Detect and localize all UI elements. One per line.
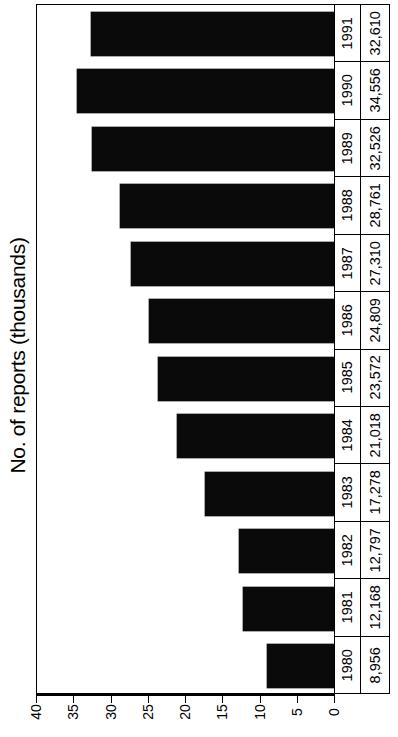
axis-tick — [111, 694, 112, 703]
table-cell-value: 34,556 — [361, 62, 389, 119]
table-cell-value-text: 32,526 — [368, 126, 383, 170]
axis-tick-label: 10 — [243, 705, 277, 719]
value-axis-title-label: No. of reports (thousands) — [7, 237, 28, 473]
table-column-year: 1991199019891988198719861985198419831982… — [335, 5, 361, 693]
table-cell-year: 1983 — [335, 464, 360, 521]
axis-tick — [185, 694, 186, 703]
table-cell-year: 1984 — [335, 407, 360, 464]
axis-tick-label-text: 20 — [178, 704, 192, 720]
bar-row — [37, 408, 334, 466]
table-cell-year-text: 1991 — [340, 17, 355, 49]
bar-row — [37, 523, 334, 581]
axis-tick-label: 30 — [94, 705, 128, 719]
table-cell-year: 1987 — [335, 235, 360, 292]
table-cell-year-text: 1983 — [340, 476, 355, 508]
bar-1982[interactable] — [239, 529, 334, 573]
bar-row — [37, 178, 334, 236]
axis-tick-label: 35 — [56, 705, 90, 719]
plot-area — [36, 4, 334, 694]
table-cell-year-text: 1986 — [340, 304, 355, 336]
table-cell-value-text: 28,761 — [368, 183, 383, 227]
table-cell-value: 28,761 — [361, 177, 389, 234]
axis-tick — [260, 694, 261, 703]
bar-row — [37, 293, 334, 351]
axis-tick-label: 20 — [168, 705, 202, 719]
bar-row — [37, 63, 334, 121]
bar-1981[interactable] — [243, 587, 334, 631]
table-cell-year-text: 1980 — [340, 649, 355, 681]
table-cell-value-text: 12,168 — [368, 585, 383, 629]
bar-1980[interactable] — [267, 644, 334, 688]
axis-tick — [36, 694, 37, 703]
axis-tick-label: 40 — [19, 705, 53, 719]
axis-tick-label-text: 35 — [66, 704, 80, 720]
bar-1988[interactable] — [120, 184, 334, 228]
bar-1983[interactable] — [205, 472, 334, 516]
bar-row — [37, 580, 334, 638]
table-cell-value: 12,168 — [361, 579, 389, 636]
bar-1984[interactable] — [177, 414, 334, 458]
axis-tick-label-text: 15 — [215, 704, 229, 720]
table-cell-value: 24,809 — [361, 292, 389, 349]
bar-row — [37, 350, 334, 408]
bar-1990[interactable] — [77, 69, 334, 113]
table-cell-value: 32,610 — [361, 5, 389, 62]
bar-row — [37, 235, 334, 293]
table-cell-value: 12,797 — [361, 522, 389, 579]
axis-tick-label-text: 25 — [141, 704, 155, 720]
axis-tick — [222, 694, 223, 703]
table-cell-value-text: 17,278 — [368, 470, 383, 514]
axis-tick-label-text: 5 — [290, 708, 304, 716]
table-cell-value-text: 34,556 — [368, 68, 383, 112]
bar-1986[interactable] — [149, 299, 334, 343]
table-cell-year: 1991 — [335, 5, 360, 62]
axis-tick-label: 15 — [205, 705, 239, 719]
table-cell-value-text: 27,310 — [368, 241, 383, 285]
table-cell-year-text: 1988 — [340, 189, 355, 221]
table-cell-year: 1980 — [335, 637, 360, 693]
table-cell-year-text: 1981 — [340, 591, 355, 623]
table-cell-value: 27,310 — [361, 235, 389, 292]
axis-tick — [334, 694, 335, 703]
axis-tick-label-text: 30 — [103, 704, 117, 720]
table-cell-value-text: 21,018 — [368, 413, 383, 457]
table-cell-year: 1981 — [335, 579, 360, 636]
axis-tick-label-text: 40 — [29, 704, 43, 720]
axis-tick — [73, 694, 74, 703]
bar-row — [37, 465, 334, 523]
table-cell-value: 23,572 — [361, 350, 389, 407]
table-cell-year-text: 1984 — [340, 419, 355, 451]
axis-tick-label-text: 10 — [252, 704, 266, 720]
axis-tick — [297, 694, 298, 703]
table-cell-year-text: 1989 — [340, 132, 355, 164]
table-cell-year-text: 1982 — [340, 534, 355, 566]
table-cell-value: 21,018 — [361, 407, 389, 464]
table-cell-value-text: 32,610 — [368, 11, 383, 55]
bar-1991[interactable] — [91, 12, 334, 56]
table-cell-value: 17,278 — [361, 464, 389, 521]
bar-1985[interactable] — [158, 357, 334, 401]
axis-tick — [148, 694, 149, 703]
table-cell-year-text: 1987 — [340, 247, 355, 279]
table-cell-value-text: 12,797 — [368, 528, 383, 572]
table-cell-value-text: 8,956 — [368, 647, 383, 683]
bar-row — [37, 120, 334, 178]
bar-row — [37, 5, 334, 63]
table-cell-value: 8,956 — [361, 637, 389, 693]
table-cell-value-text: 23,572 — [368, 356, 383, 400]
axis-tick-label: 5 — [280, 705, 314, 719]
table-cell-value: 32,526 — [361, 120, 389, 177]
table-cell-value-text: 24,809 — [368, 298, 383, 342]
value-axis-title: No. of reports (thousands) — [0, 0, 34, 710]
data-table: 1991199019891988198719861985198419831982… — [334, 4, 390, 694]
axis-tick-label: 25 — [131, 705, 165, 719]
table-cell-year: 1982 — [335, 522, 360, 579]
bar-row — [37, 638, 334, 695]
axis-tick-label: 0 — [317, 705, 351, 719]
table-cell-year-text: 1985 — [340, 362, 355, 394]
table-cell-year: 1990 — [335, 62, 360, 119]
table-cell-year-text: 1990 — [340, 74, 355, 106]
table-cell-year: 1989 — [335, 120, 360, 177]
bar-1989[interactable] — [92, 127, 334, 171]
bar-1987[interactable] — [131, 242, 334, 286]
